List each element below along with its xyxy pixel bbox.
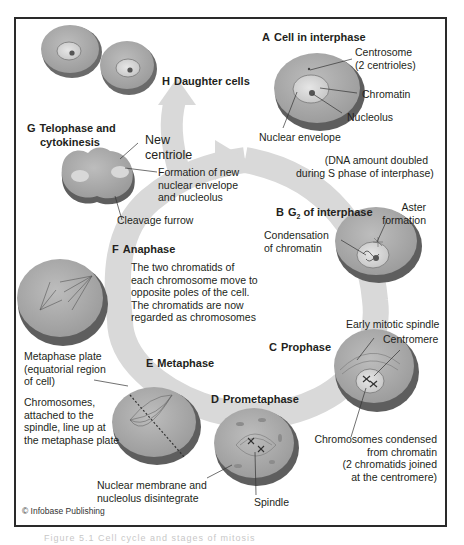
figure-caption-cutoff: Figure 5.1 Cell cycle and stages of mito… (44, 533, 256, 543)
stage-b-title: BG2 of interphase (276, 206, 373, 223)
label-spindle: Spindle (254, 496, 289, 509)
label-anaphase-description: The two chromatids of each chromosome mo… (131, 261, 258, 324)
stage-f-title: FAnaphase (112, 243, 175, 256)
daughter-cell-1 (41, 25, 102, 78)
cell-anaphase (17, 259, 108, 346)
label-new-centriole: New centriole (145, 133, 192, 163)
label-chromosomes-condensed: Chromosomes condensed from chromatin (2 … (314, 433, 437, 483)
cell-telophase (62, 147, 135, 204)
label-condensation-chromatin: Condensation of chromatin (264, 229, 329, 254)
label-nucleolus: Nucleolus (347, 111, 393, 124)
stage-c-title: CProphase (269, 341, 331, 354)
copyright-credit: © Infobase Publishing (22, 506, 105, 516)
stage-d-title: DPrometaphase (211, 393, 299, 406)
daughter-cell-2 (100, 41, 157, 95)
stage-g-title: GTelophase and (27, 122, 116, 135)
stage-e-title: EMetaphase (146, 357, 214, 370)
label-centromere: Centromere (383, 333, 438, 346)
stage-g-title-line2: cytokinesis (40, 136, 100, 149)
label-cleavage-furrow: Cleavage furrow (117, 214, 193, 227)
label-early-mitotic-spindle: Early mitotic spindle (346, 318, 439, 331)
stage-h-title: HDaughter cells (162, 75, 250, 88)
label-metaphase-plate: Metaphase plate (equatorial region of ce… (24, 350, 106, 388)
label-centrosome: Centrosome (2 centrioles) (355, 46, 416, 71)
stage-a-title: ACell in interphase (262, 31, 366, 44)
label-new-nuclear-envelope: Formation of new nuclear envelope and nu… (158, 166, 239, 204)
label-chromosomes-line-up: Chromosomes, attached to the spindle, li… (24, 396, 119, 446)
label-chromatin: Chromatin (362, 88, 410, 101)
label-nuclear-envelope: Nuclear envelope (259, 131, 341, 144)
label-aster-formation: Aster formation (380, 201, 426, 226)
label-dna-doubled: (DNA amount doubled during S phase of in… (296, 154, 428, 179)
label-nuclear-membrane: Nuclear membrane and nucleolus disintegr… (97, 479, 207, 504)
